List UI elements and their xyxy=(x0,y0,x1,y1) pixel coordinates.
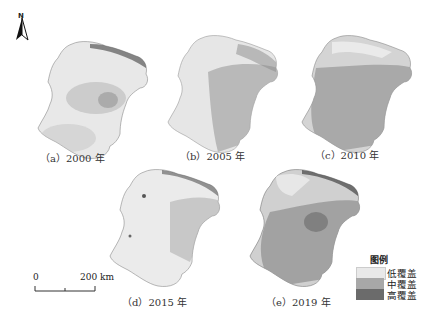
scale-bar xyxy=(34,281,96,293)
caption-2010: （c）2010 年 xyxy=(315,147,379,162)
caption-2015: （d）2015 年 xyxy=(122,294,187,309)
legend-swatch-high xyxy=(356,289,384,300)
map-panel-2015 xyxy=(100,166,230,294)
legend-swatch-mid xyxy=(356,278,384,289)
map-panel-2005 xyxy=(158,32,288,160)
caption-2000: （a）2000 年 xyxy=(40,150,105,165)
map-panel-2019 xyxy=(240,166,370,294)
legend-label-high: 高覆盖 xyxy=(387,288,417,302)
coverage-map-2000 xyxy=(28,38,158,166)
coverage-map-2019 xyxy=(240,166,370,294)
map-panel-2000 xyxy=(28,38,158,166)
caption-2005: （b）2005 年 xyxy=(180,148,245,163)
map-panel-2010 xyxy=(292,32,422,160)
legend-title: 图例 xyxy=(370,253,388,266)
legend-item-high: 高覆盖 xyxy=(356,289,436,300)
coverage-map-2005 xyxy=(158,32,288,160)
caption-2019: （e）2019 年 xyxy=(266,294,331,309)
coverage-map-2010 xyxy=(292,32,422,160)
coverage-map-2015 xyxy=(100,166,230,294)
